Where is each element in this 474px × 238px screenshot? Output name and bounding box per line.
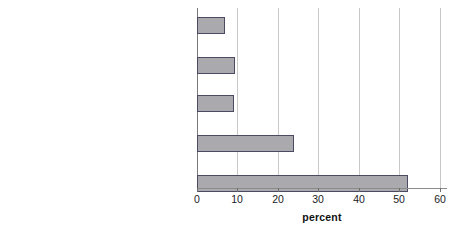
x-tick-label-40: 40 xyxy=(339,193,379,205)
gridline-60 xyxy=(440,8,441,188)
x-tick-label-0: 0 xyxy=(177,193,217,205)
x-axis-title: percent xyxy=(197,211,447,223)
gridline-40 xyxy=(359,8,360,188)
bar-insect-bt-herbicide-resistant-cotton xyxy=(197,57,235,74)
tick-mark-50 xyxy=(399,188,400,192)
x-tick-label-10: 10 xyxy=(217,193,257,205)
tick-mark-30 xyxy=(318,188,319,192)
bar-insect-resistant-bt-corn xyxy=(197,135,294,152)
tick-mark-60 xyxy=(440,188,441,192)
tick-mark-10 xyxy=(237,188,238,192)
tick-mark-40 xyxy=(359,188,360,192)
x-tick-label-50: 50 xyxy=(379,193,419,205)
gridline-50 xyxy=(399,8,400,188)
tick-mark-20 xyxy=(278,188,279,192)
gridline-30 xyxy=(318,8,319,188)
x-tick-label-20: 20 xyxy=(258,193,298,205)
plot-area xyxy=(197,8,445,188)
gridline-20 xyxy=(278,8,279,188)
bar-herbicide-resistant-corn xyxy=(197,17,225,34)
gridline-10 xyxy=(237,8,238,188)
bar-herbicide-resistant-canola xyxy=(197,95,234,112)
tick-mark-0 xyxy=(197,188,198,192)
bar-chart-figure: herbicide-resistant corn Insect(Bt)/herb… xyxy=(0,0,474,238)
x-axis-line xyxy=(197,188,447,189)
bar-herbicide-resistant-soybean xyxy=(197,175,408,192)
x-tick-label-30: 30 xyxy=(298,193,338,205)
x-tick-label-60: 60 xyxy=(420,193,460,205)
